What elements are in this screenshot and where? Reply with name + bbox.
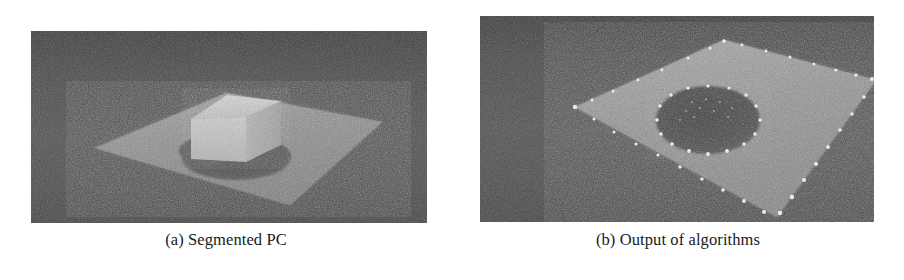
panel-segmented-pc <box>31 31 427 223</box>
figure: (a) Segmented PC <box>0 0 904 280</box>
point-cloud-scene-b <box>480 16 874 222</box>
subfigure-a-caption: (a) Segmented PC <box>0 230 452 250</box>
panel-algorithm-output <box>480 16 874 222</box>
point-cloud-scene-a <box>31 31 427 223</box>
subfigure-b-caption: (b) Output of algorithms <box>452 230 904 250</box>
